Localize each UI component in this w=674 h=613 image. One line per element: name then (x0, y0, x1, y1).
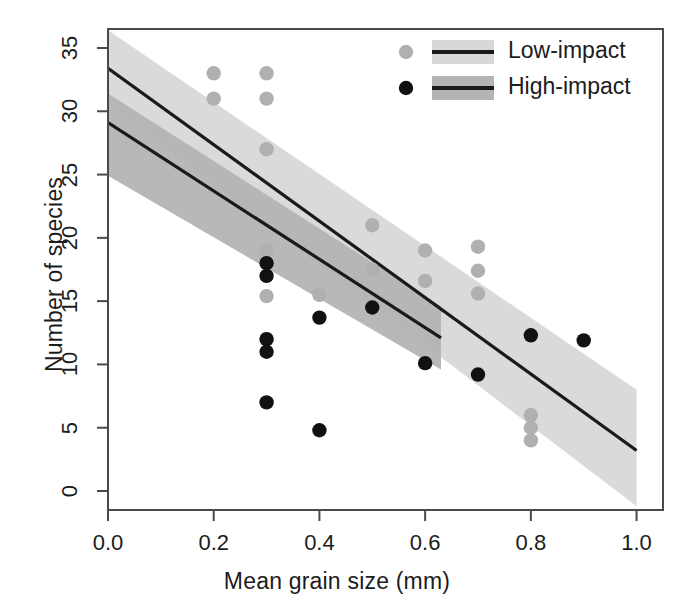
data-point (259, 66, 273, 80)
data-point (259, 256, 273, 270)
y-tick-label: 30 (57, 91, 83, 131)
regression-line-layer (108, 68, 637, 450)
data-point (471, 240, 485, 254)
data-point (259, 269, 273, 283)
data-point (524, 433, 538, 447)
legend-label-low-impact: Low-impact (508, 37, 626, 64)
data-point (259, 243, 273, 257)
y-tick-label: 0 (57, 471, 83, 511)
x-tick-label: 0.4 (304, 530, 335, 556)
y-tick-label: 25 (57, 155, 83, 195)
data-point (207, 66, 221, 80)
regression-line-low-impact (108, 68, 637, 450)
legend-label-high-impact: High-impact (508, 73, 631, 100)
x-tick-label: 0.2 (198, 530, 229, 556)
y-tick-label: 5 (57, 408, 83, 448)
x-tick-label: 0.8 (516, 530, 547, 556)
x-tick-label: 0.0 (93, 530, 124, 556)
data-point (524, 408, 538, 422)
data-point (418, 243, 432, 257)
data-point (259, 289, 273, 303)
y-tick-label: 20 (57, 218, 83, 258)
data-point (577, 333, 591, 347)
legend-marker-dot (399, 45, 413, 59)
data-point (365, 300, 379, 314)
x-tick-label: 1.0 (621, 530, 652, 556)
data-point (259, 332, 273, 346)
data-point (259, 91, 273, 105)
data-point (471, 367, 485, 381)
data-point (312, 310, 326, 324)
legend-marker-dot (399, 81, 413, 95)
data-point (312, 288, 326, 302)
data-point (365, 262, 379, 276)
y-tick-label: 35 (57, 28, 83, 68)
data-point (471, 264, 485, 278)
data-point (259, 142, 273, 156)
data-point (259, 395, 273, 409)
y-tick-label: 15 (57, 281, 83, 321)
legend-swatches (399, 40, 494, 100)
data-point (471, 286, 485, 300)
x-axis-title: Mean grain size (mm) (0, 568, 674, 595)
chart-figure: Mean grain size (mm) Number of species 0… (0, 0, 674, 613)
data-point (259, 345, 273, 359)
data-point (524, 328, 538, 342)
data-point (418, 356, 432, 370)
data-point (312, 423, 326, 437)
x-tick-label: 0.6 (410, 530, 441, 556)
data-point (524, 421, 538, 435)
y-tick-label: 10 (57, 344, 83, 384)
data-point (207, 91, 221, 105)
data-point (418, 274, 432, 288)
data-point (365, 218, 379, 232)
